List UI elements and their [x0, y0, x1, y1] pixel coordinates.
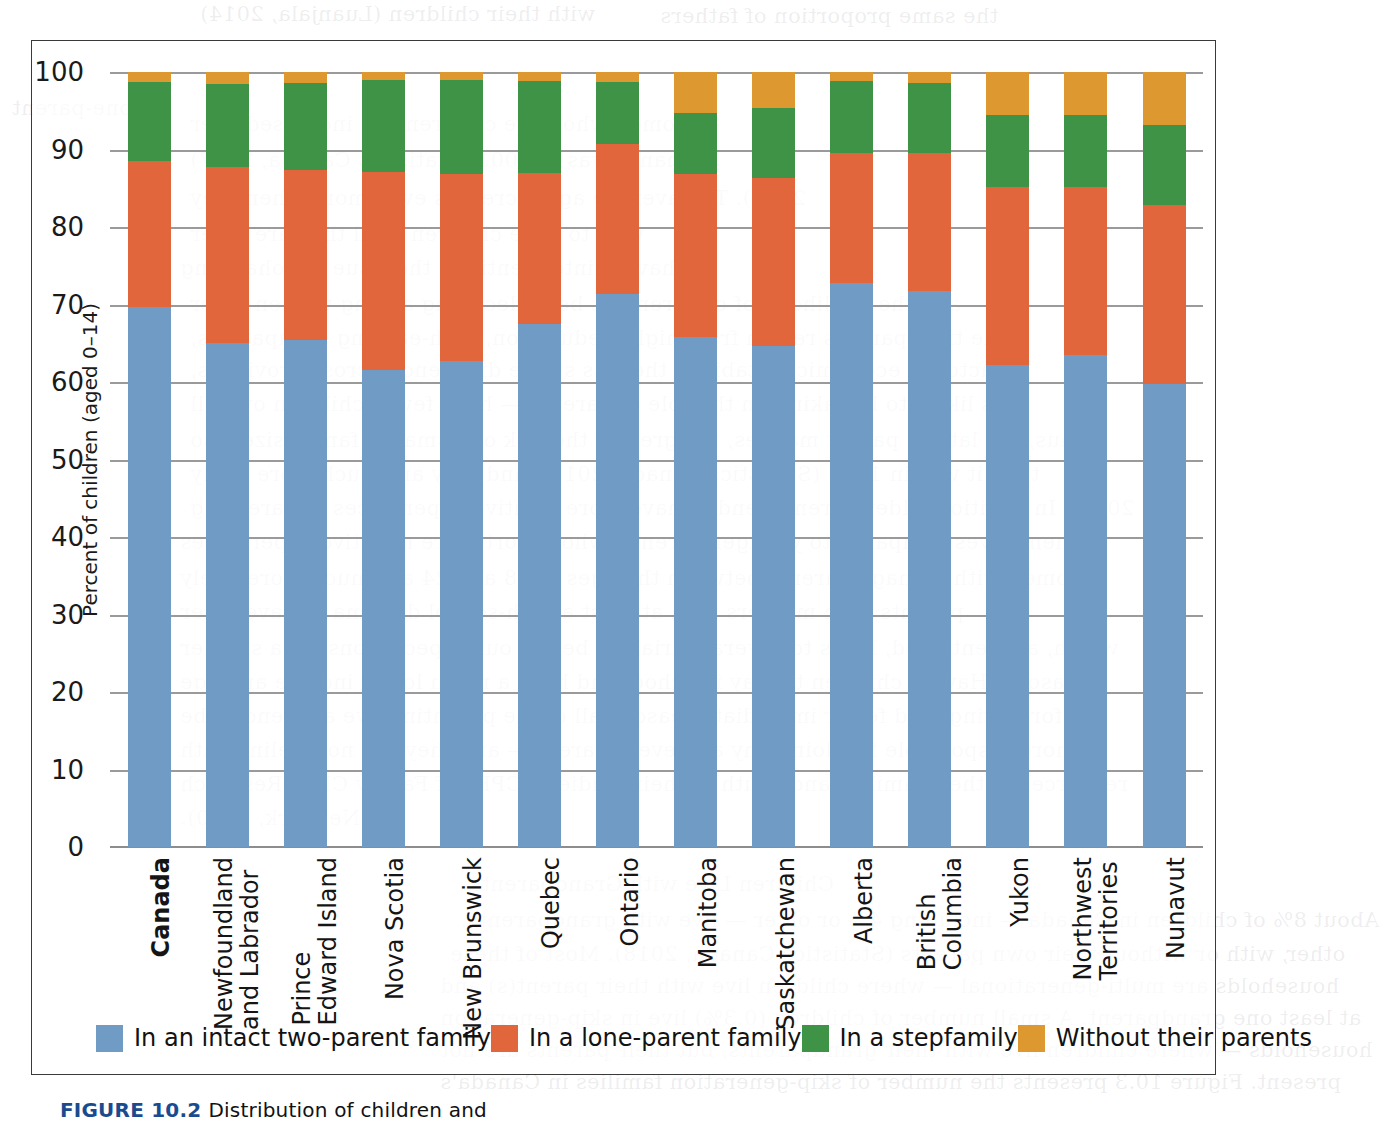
bar-segment[interactable] — [752, 108, 795, 178]
bar-segment[interactable] — [1143, 72, 1186, 125]
bar-segment[interactable] — [908, 291, 951, 847]
x-tick-label-line: Columbia — [941, 857, 967, 970]
bar-segment[interactable] — [986, 72, 1029, 115]
bar-segment[interactable] — [284, 83, 327, 170]
bar-segment[interactable] — [440, 80, 483, 174]
x-tick-label: Quebec — [539, 857, 565, 949]
bar-segment[interactable] — [752, 72, 795, 108]
bar-segment[interactable] — [206, 167, 249, 344]
bar-segment[interactable] — [440, 72, 483, 80]
stacked-bar[interactable] — [284, 72, 327, 847]
x-tick-label-line: Nova Scotia — [381, 857, 409, 1000]
stacked-bar[interactable] — [206, 72, 249, 847]
bar-segment[interactable] — [518, 81, 561, 173]
bar-segment[interactable] — [908, 153, 951, 291]
bar-column[interactable] — [969, 72, 1047, 847]
bar-column[interactable] — [735, 72, 813, 847]
bar-column[interactable] — [266, 72, 344, 847]
bar-column[interactable] — [1047, 72, 1125, 847]
y-tick-label: 30 — [24, 600, 84, 630]
bar-segment[interactable] — [674, 337, 717, 847]
bar-segment[interactable] — [284, 170, 327, 341]
bar-segment[interactable] — [206, 343, 249, 847]
stacked-bar[interactable] — [986, 72, 1029, 847]
legend-swatch — [96, 1025, 123, 1052]
stacked-bar[interactable] — [1064, 72, 1107, 847]
bar-segment[interactable] — [596, 72, 639, 82]
bar-column[interactable] — [657, 72, 735, 847]
bar-column[interactable] — [110, 72, 188, 847]
bar-column[interactable] — [500, 72, 578, 847]
bar-segment[interactable] — [830, 72, 873, 81]
bar-segment[interactable] — [440, 174, 483, 362]
x-tick-label-line: Newfoundland — [210, 857, 238, 1030]
bar-segment[interactable] — [206, 72, 249, 84]
stacked-bar[interactable] — [362, 72, 405, 847]
bar-segment[interactable] — [674, 72, 717, 113]
bar-segment[interactable] — [1064, 187, 1107, 354]
bar-segment[interactable] — [752, 178, 795, 345]
bar-segment[interactable] — [362, 172, 405, 370]
bar-segment[interactable] — [1143, 205, 1186, 385]
bar-column[interactable] — [1125, 72, 1203, 847]
bar-segment[interactable] — [128, 161, 171, 307]
bar-column[interactable] — [813, 72, 891, 847]
bar-column[interactable] — [188, 72, 266, 847]
stacked-bar[interactable] — [1143, 72, 1186, 847]
stacked-bar[interactable] — [440, 72, 483, 847]
bar-segment[interactable] — [830, 81, 873, 153]
bar-segment[interactable] — [1064, 355, 1107, 847]
stacked-bar[interactable] — [830, 72, 873, 847]
bar-segment[interactable] — [128, 82, 171, 161]
bar-segment[interactable] — [206, 84, 249, 167]
bar-column[interactable] — [422, 72, 500, 847]
x-tick-label: BritishColumbia — [915, 857, 967, 970]
bar-segment[interactable] — [518, 173, 561, 324]
legend-item[interactable]: In an intact two-parent family — [96, 1024, 491, 1052]
bar-segment[interactable] — [284, 340, 327, 847]
bar-column[interactable] — [344, 72, 422, 847]
bar-segment[interactable] — [830, 153, 873, 283]
stacked-bar[interactable] — [908, 72, 951, 847]
bar-segment[interactable] — [518, 72, 561, 81]
bar-segment[interactable] — [128, 307, 171, 847]
bar-segment[interactable] — [908, 72, 951, 83]
bar-segment[interactable] — [596, 82, 639, 144]
bar-segment[interactable] — [362, 370, 405, 847]
bar-segment[interactable] — [362, 80, 405, 172]
legend: In an intact two-parent familyIn a lone-… — [72, 1018, 1177, 1058]
bar-segment[interactable] — [986, 187, 1029, 365]
x-tick-label-line: Prince — [288, 952, 316, 1026]
bar-segment[interactable] — [752, 346, 795, 847]
stacked-bar[interactable] — [518, 72, 561, 847]
y-tick-label: 90 — [24, 135, 84, 165]
bar-segment[interactable] — [1064, 72, 1107, 115]
bar-column[interactable] — [891, 72, 969, 847]
stacked-bar[interactable] — [674, 72, 717, 847]
bar-segment[interactable] — [596, 144, 639, 294]
stacked-bar[interactable] — [752, 72, 795, 847]
bar-segment[interactable] — [596, 294, 639, 847]
bar-segment[interactable] — [986, 365, 1029, 847]
bar-segment[interactable] — [908, 83, 951, 153]
bar-segment[interactable] — [440, 361, 483, 847]
bar-column[interactable] — [578, 72, 656, 847]
bar-segment[interactable] — [1143, 384, 1186, 847]
stacked-bar[interactable] — [596, 72, 639, 847]
bar-segment[interactable] — [518, 324, 561, 847]
y-tick-label: 100 — [24, 57, 84, 87]
x-tick-label: Manitoba — [696, 857, 722, 968]
bar-segment[interactable] — [674, 113, 717, 174]
bar-segment[interactable] — [362, 72, 405, 80]
bar-segment[interactable] — [284, 72, 327, 83]
bar-segment[interactable] — [986, 115, 1029, 187]
legend-item[interactable]: In a stepfamily — [802, 1024, 1018, 1052]
bar-segment[interactable] — [1064, 115, 1107, 187]
stacked-bar[interactable] — [128, 72, 171, 847]
legend-item[interactable]: Without their parents — [1018, 1024, 1312, 1052]
bar-segment[interactable] — [830, 283, 873, 847]
bar-segment[interactable] — [674, 174, 717, 337]
legend-item[interactable]: In a lone-parent family — [491, 1024, 802, 1052]
bar-segment[interactable] — [1143, 125, 1186, 205]
bar-segment[interactable] — [128, 72, 171, 82]
